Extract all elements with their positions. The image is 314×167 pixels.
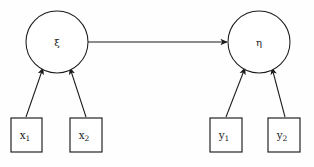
edge-x2-to-xi	[70, 68, 86, 117]
edge-y2-to-eta	[272, 68, 285, 117]
observed-label-y2-subscript: 2	[283, 134, 288, 143]
latent-label-eta: η	[256, 37, 262, 48]
observed-label-y1-base: y	[218, 129, 225, 141]
observed-label-x2-subscript: 2	[85, 134, 90, 143]
diagram-canvas: ξ η x1 x2 y1 y2	[0, 0, 314, 167]
latent-label-xi: ξ	[54, 37, 60, 48]
observed-label-y2-base: y	[276, 129, 283, 141]
observed-label-x1-subscript: 1	[26, 134, 31, 143]
sem-path-diagram: ξ η x1 x2 y1 y2	[0, 0, 314, 167]
edge-x1-to-xi	[26, 68, 43, 117]
observed-label-y1-subscript: 1	[225, 134, 230, 143]
edge-y1-to-eta	[226, 68, 245, 117]
